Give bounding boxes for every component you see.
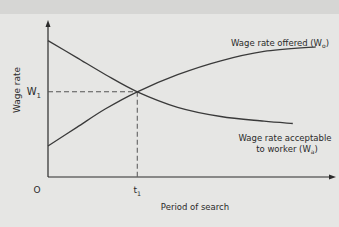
wage-acceptable-label-line2: to worker (Wa) <box>256 144 318 155</box>
chart: Wage rate Period of search O W1t1 Wage r… <box>0 0 339 227</box>
wage-offered-label: Wage rate offered (Wo) <box>231 38 329 49</box>
wage-acceptable-label-line1: Wage rate acceptable <box>238 133 331 143</box>
y-axis-label: Wage rate <box>12 66 22 113</box>
origin-label: O <box>33 185 40 195</box>
header-band <box>0 0 339 14</box>
x-axis-label: Period of search <box>161 202 229 212</box>
